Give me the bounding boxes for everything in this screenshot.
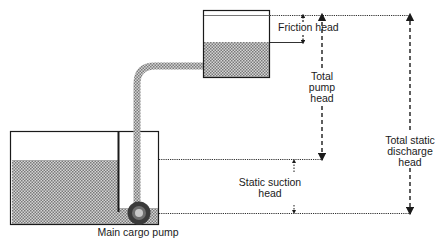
total-static-discharge-label-3: head xyxy=(398,156,422,168)
static-suction-label-2: head xyxy=(258,187,282,199)
friction-head-label: Friction head xyxy=(278,21,339,33)
cargo-liquid xyxy=(12,160,118,224)
receiving-tank xyxy=(204,11,271,79)
pump-head-diagram: Friction head Total pump head Total stat… xyxy=(0,0,436,241)
main-cargo-pump-icon xyxy=(128,202,151,225)
main-cargo-pump-label: Main cargo pump xyxy=(97,226,178,238)
receiving-liquid xyxy=(204,42,270,78)
discharge-pipe xyxy=(137,66,204,210)
total-pump-head-label-3: head xyxy=(310,92,334,104)
